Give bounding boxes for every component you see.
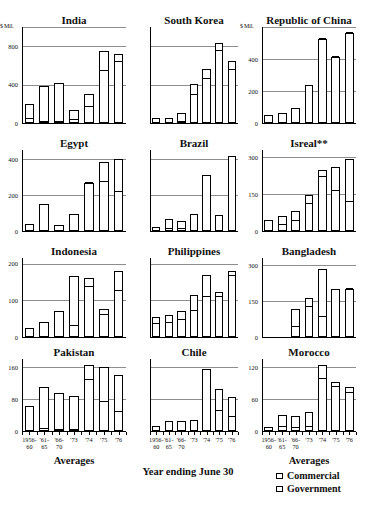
bar [215,389,223,431]
bar [39,86,49,123]
tickmark [175,432,176,435]
bar [318,170,327,231]
gridline [262,59,356,60]
bar [331,167,340,231]
bar-segment-government [332,190,339,231]
bar-segment-government [70,119,78,122]
tickmark [289,432,290,435]
y-axis [150,150,151,231]
bar-segment-government [85,379,93,430]
bar [215,43,223,123]
bar-segment-government [346,392,353,430]
bar [190,84,198,123]
bar [202,275,210,337]
bar [264,220,273,231]
x-axis-caption-averages: Averages [262,455,356,466]
bar-segment-government [203,296,209,336]
x-axis-labels: 1956-60'61-65'66-70'73'74'75'76 [150,436,238,454]
x-axis-label: '76 [338,436,360,443]
gridline [150,195,238,196]
bar [318,365,327,431]
tickmark [302,432,303,435]
tickmark [119,432,120,435]
bar [331,382,340,431]
tickmark [96,432,97,435]
tickmark [104,432,105,435]
y-axis-tick-label: 200 [240,88,258,95]
legend-swatch-government-icon [276,486,283,492]
x-axis-label: '76 [221,436,243,443]
bar [278,415,287,431]
y-axis-tick-label: 80 [0,396,18,403]
x-axis-label-line2: 70 [48,443,70,450]
x-axis-labels: 1956-60'61-65'66-70'73'74'75'76 [22,436,126,454]
tickmark [343,432,344,435]
tickmark [356,432,357,435]
chart-panel-isreal: Isreal**0150300 [240,137,358,235]
bar-segment-government [292,326,299,336]
x-axis-tickmarks [150,432,238,435]
tickmark [296,432,297,435]
gridline [22,85,126,86]
tickmark [269,432,270,435]
bar [228,397,236,431]
bar [177,311,185,337]
bar-segment-government [319,378,326,430]
x-axis-label: '76 [108,436,130,443]
x-axis [22,123,126,124]
tickmark [219,432,220,435]
gridline [150,399,238,400]
bar [291,309,300,337]
bar [165,118,173,123]
bar-segment-government [229,416,235,430]
y-axis [262,150,263,231]
chart-panel-egypt: Egypt0200400 [0,137,128,235]
tickmark [275,432,276,435]
tickmark [67,432,68,435]
bar [54,83,64,123]
bar-segment-government [115,290,123,336]
bar-segment-government [216,50,222,122]
bar-segment-government [153,323,159,336]
tickmark [309,432,310,435]
bar [228,61,236,123]
bar [69,110,79,123]
panel-title: Egypt [22,137,126,149]
bar-segment-government [332,56,339,122]
bar-segment-government [85,182,93,230]
bar [291,108,300,123]
panel-title: Morocco [262,346,356,358]
gridline [262,157,356,158]
tickmark [336,432,337,435]
chart-panel-chile: Chile [128,346,240,435]
panel-title: Indonesia [22,245,126,257]
legend: Commercial Government [276,469,341,495]
chart-panel-philippines: Philippines [128,245,240,341]
bar [331,289,340,337]
y-axis-tick-label: 0 [0,334,18,341]
y-axis-tick-label: 0 [240,228,258,235]
x-axis [22,337,126,338]
y-axis-tick-label: 400 [0,81,18,88]
legend-swatch-commercial-icon [276,473,283,479]
bar-segment-government [279,426,286,430]
bar [345,289,354,337]
tickmark [22,432,23,435]
bar-segment-government [279,224,286,230]
bar-segment-government [115,191,123,230]
gridline [262,399,356,400]
bar-segment-government [55,429,63,430]
bar [318,39,327,123]
bar [25,406,35,431]
bar-segment-government [203,78,209,122]
plot-area [150,258,238,337]
x-axis [150,337,238,338]
gridline [150,46,238,47]
gridline [22,195,126,196]
tickmark [232,432,233,435]
bar [69,396,79,431]
bar [54,393,64,431]
bar-segment-government [115,411,123,430]
x-axis-label-line2: 70 [285,443,307,450]
tickmark [207,432,208,435]
